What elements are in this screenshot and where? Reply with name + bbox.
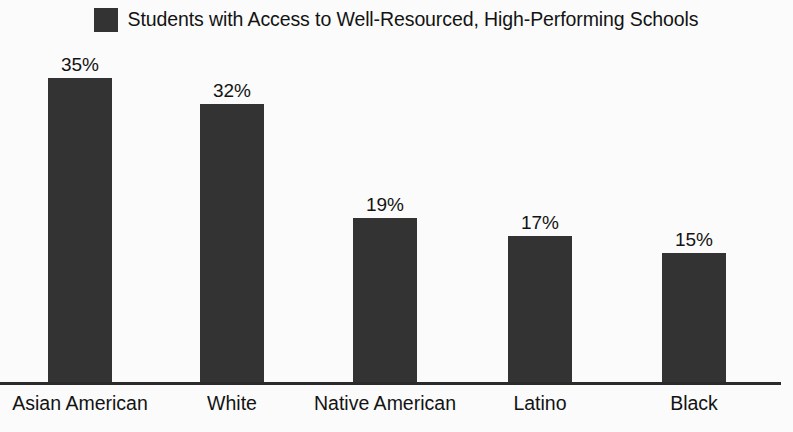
x-axis-tick-label: Asian American	[12, 394, 147, 414]
bar-group: 35%	[48, 78, 112, 384]
bar-chart: Students with Access to Well-Resourced, …	[0, 0, 793, 432]
bar[interactable]	[48, 78, 112, 384]
bar-value-label: 17%	[521, 213, 559, 232]
x-axis-line	[0, 382, 781, 385]
bar-group: 15%	[662, 253, 726, 384]
x-axis-tick-label: Latino	[513, 394, 566, 414]
bar[interactable]	[508, 236, 572, 384]
bar[interactable]	[200, 104, 264, 384]
bar-value-label: 15%	[675, 230, 713, 249]
bar-group: 32%	[200, 104, 264, 384]
x-axis-tick-label: Black	[670, 394, 718, 414]
bar-value-label: 32%	[213, 81, 251, 100]
x-axis-tick-label: Native American	[314, 394, 456, 414]
bar-value-label: 19%	[366, 195, 404, 214]
bar-group: 17%	[508, 236, 572, 384]
x-axis-tick-label: White	[207, 394, 257, 414]
bar[interactable]	[353, 218, 417, 384]
bar-group: 19%	[353, 218, 417, 384]
bar[interactable]	[662, 253, 726, 384]
bar-value-label: 35%	[61, 55, 99, 74]
plot-area: 35% 32% 19% 17% 15% Asian American White…	[0, 0, 793, 432]
